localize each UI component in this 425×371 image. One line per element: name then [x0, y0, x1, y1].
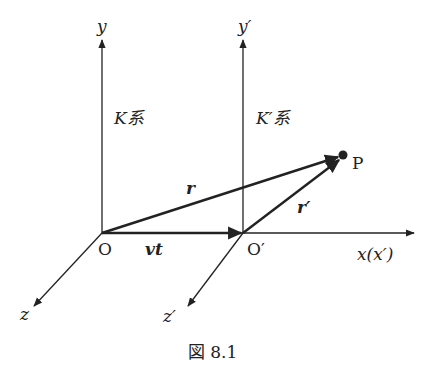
- figure-caption: 図 8.1: [0, 338, 425, 363]
- r-label: r: [186, 178, 196, 198]
- y-prime-label: y′: [237, 16, 252, 36]
- z-axis: [34, 233, 102, 306]
- z-prime-label: z′: [162, 306, 176, 326]
- r-vector: [102, 157, 338, 233]
- z-label: z: [19, 304, 30, 324]
- k-prime-system-label: K′系: [255, 108, 291, 128]
- origin-prime-label: O′: [247, 239, 265, 259]
- vt-label: vt: [145, 239, 163, 259]
- x-label: x(x′): [357, 244, 393, 264]
- k-system-label: K系: [113, 108, 145, 128]
- point-p-dot: [339, 151, 348, 160]
- y-label: y: [96, 16, 107, 36]
- point-p-label: P: [352, 153, 363, 173]
- z-prime-axis: [188, 233, 243, 306]
- r-prime-label: r′: [297, 197, 311, 217]
- diagram-canvas: y y′ K系 K′系 r r′ P O O′ vt x(x′) z z′: [0, 0, 425, 371]
- origin-label: O: [98, 239, 112, 259]
